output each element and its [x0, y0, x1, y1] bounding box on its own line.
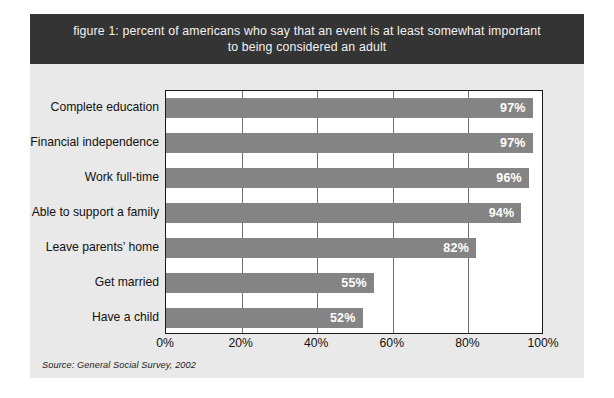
category-label: Able to support a family [30, 202, 159, 222]
x-axis-tick-label: 20% [228, 336, 252, 350]
figure-title: figure 1: percent of americans who say t… [73, 23, 541, 55]
bar[interactable]: 52% [166, 308, 363, 328]
x-axis-tick-label: 60% [380, 336, 404, 350]
x-axis-tick-label: 80% [455, 336, 479, 350]
category-axis-labels: Complete educationFinancial independence… [30, 90, 159, 334]
bar[interactable]: 94% [166, 203, 521, 223]
category-label: Work full-time [30, 167, 159, 187]
category-label: Leave parents’ home [30, 237, 159, 257]
bar-value-label: 94% [489, 206, 522, 220]
bar[interactable]: 97% [166, 133, 533, 153]
category-label: Have a child [30, 307, 159, 327]
bar[interactable]: 82% [166, 238, 476, 258]
bar-value-label: 97% [500, 101, 533, 115]
bar[interactable]: 55% [166, 273, 374, 293]
category-label: Financial independence [30, 132, 159, 152]
source-note: Source: General Social Survey, 2002 [42, 360, 196, 370]
figure-title-band: figure 1: percent of americans who say t… [30, 14, 584, 64]
bar-value-label: 52% [330, 311, 363, 325]
x-axis-tick-label: 100% [527, 336, 558, 350]
x-axis-tick-label: 40% [304, 336, 328, 350]
bar-value-label: 96% [496, 171, 529, 185]
bar[interactable]: 97% [166, 98, 533, 118]
bar-value-label: 82% [443, 241, 476, 255]
bar-series: 97%97%96%94%82%55%52% [166, 91, 542, 333]
bar-value-label: 97% [500, 136, 533, 150]
chart-plot-area: 97%97%96%94%82%55%52% [165, 90, 543, 334]
x-axis-tick-label: 0% [156, 336, 174, 350]
value-axis-labels: 0%20%40%60%80%100% [165, 336, 543, 356]
category-label: Complete education [30, 97, 159, 117]
figure-card: figure 1: percent of americans who say t… [30, 14, 584, 378]
bar[interactable]: 96% [166, 168, 529, 188]
category-label: Get married [30, 272, 159, 292]
bar-value-label: 55% [341, 276, 374, 290]
